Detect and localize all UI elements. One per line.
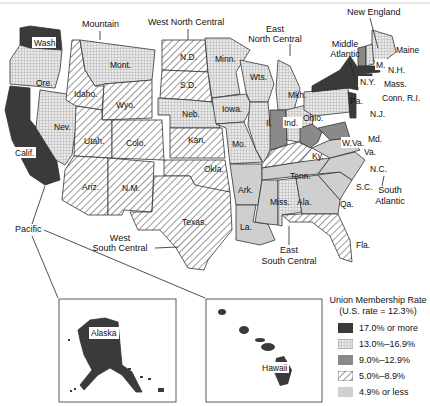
label-minn: Minn. xyxy=(215,54,236,64)
label-wash: Wash. xyxy=(34,38,58,48)
label-mich: Mkh. xyxy=(288,90,306,100)
region-mountain: Mountain xyxy=(82,19,119,29)
swatch-grid-icon xyxy=(338,339,353,349)
swatch-light-icon xyxy=(338,387,353,397)
region-east-south-central-1: East xyxy=(280,245,299,255)
label-mont: Mont. xyxy=(110,60,131,70)
label-neb: Neb. xyxy=(182,109,200,119)
legend-item-9-12: 9.0%–12.9% xyxy=(338,352,430,368)
region-south-atlantic-1: South xyxy=(378,185,402,195)
label-colo: Colo. xyxy=(126,138,146,148)
label-tenn: Tenn. xyxy=(290,171,311,181)
label-mass: Mass. xyxy=(384,79,407,89)
label-ala: Ala. xyxy=(297,197,312,207)
state-pa xyxy=(304,88,350,116)
label-fla: Fla. xyxy=(356,240,370,250)
label-calif: Calif. xyxy=(15,148,34,158)
label-utah: Utah. xyxy=(84,136,104,146)
label-wva: W.Va. xyxy=(342,138,364,148)
label-nm: N.M. xyxy=(122,183,140,193)
label-ind: Ind. xyxy=(284,118,298,128)
label-nc: N.C. xyxy=(370,164,387,174)
label-kan: Kan. xyxy=(188,135,206,145)
legend-item-5-8: 5.0%–8.9% xyxy=(338,368,430,384)
label-wis: Wts. xyxy=(250,72,267,82)
label-wyo: Wyo. xyxy=(116,100,135,110)
label-ariz: Ariz. xyxy=(82,182,99,192)
swatch-medium-icon xyxy=(338,355,353,365)
region-west-north-central: West North Central xyxy=(148,17,224,27)
label-va: Va. xyxy=(364,147,376,157)
state-ny xyxy=(312,56,358,92)
legend: Union Membership Rate (U.S. rate = 12.3%… xyxy=(326,295,430,400)
label-nd: N.D. xyxy=(180,52,197,62)
legend-item-13-16: 13.0%–16.9% xyxy=(338,336,430,352)
label-alaska: Alaska xyxy=(91,328,117,338)
label-sd: S.D. xyxy=(180,80,197,90)
label-conn-ri: Conn. R.I. xyxy=(382,93,420,103)
region-east-north-central-2: North Central xyxy=(248,34,302,44)
label-ill: Il. xyxy=(266,118,273,128)
legend-subtitle: (U.S. rate = 12.3%) xyxy=(326,306,430,317)
region-south-atlantic-2: Atlantic xyxy=(375,196,405,206)
label-mo: Mo. xyxy=(232,139,246,149)
region-pacific: Pacific xyxy=(15,224,42,234)
label-okla: Okla. xyxy=(204,164,224,174)
label-md: Md. xyxy=(368,134,382,144)
label-maine: Maine xyxy=(396,45,419,55)
region-new-england: New England xyxy=(347,7,401,17)
label-hawaii: Hawaii xyxy=(262,363,288,373)
region-middle-atlantic-1: Middle xyxy=(332,39,359,49)
label-vt: M. xyxy=(376,60,385,70)
label-iowa: Iowa. xyxy=(222,104,242,114)
label-idaho: Idaho. xyxy=(74,89,98,99)
label-nev: Nev. xyxy=(54,122,71,132)
region-west-south-central-2: South Central xyxy=(92,243,147,253)
label-ark: Ark. xyxy=(238,185,253,195)
label-la: La. xyxy=(240,222,252,232)
swatch-dark-icon xyxy=(338,323,353,333)
label-sc: S.C. xyxy=(356,182,373,192)
label-ky: Ky. xyxy=(312,151,324,161)
region-east-north-central-1: East xyxy=(266,24,285,34)
region-middle-atlantic-2: Atlantic xyxy=(330,49,360,59)
region-east-south-central-2: South Central xyxy=(261,256,316,266)
state-ind xyxy=(270,110,287,150)
legend-title: Union Membership Rate xyxy=(326,295,430,306)
legend-item-under-5: 4.9% or less xyxy=(338,384,430,400)
label-pa: Pa. xyxy=(350,96,363,106)
label-miss: Miss. xyxy=(270,197,290,207)
label-nj: N.J. xyxy=(370,109,385,119)
label-ga: Qa. xyxy=(340,199,354,209)
label-ohio: Ohio. xyxy=(303,113,323,123)
label-texas: Texas. xyxy=(182,217,207,227)
swatch-hatch-icon xyxy=(338,371,353,381)
state-mich xyxy=(276,60,300,110)
region-west-south-central-1: West xyxy=(110,233,131,243)
label-ny: N.Y. xyxy=(360,77,375,87)
label-nh: N.H. xyxy=(388,65,405,75)
label-ore: Ore. xyxy=(36,78,53,88)
legend-item-17-plus: 17.0% or more xyxy=(338,320,430,336)
